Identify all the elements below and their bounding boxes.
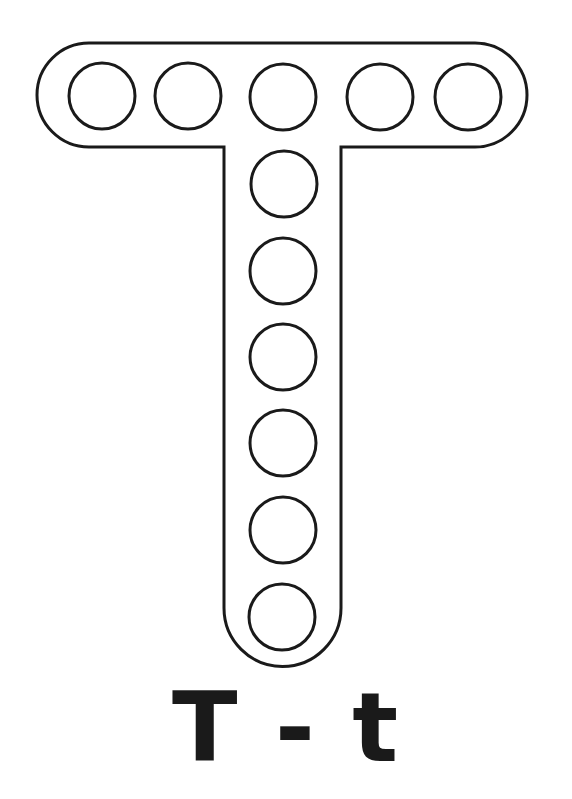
dot-circle[interactable] — [250, 324, 316, 390]
dot-circle[interactable] — [69, 63, 135, 129]
dot-circle[interactable] — [250, 410, 316, 476]
dot-circle[interactable] — [347, 64, 413, 130]
dot-circle[interactable] — [250, 497, 316, 563]
dot-circle[interactable] — [155, 63, 221, 129]
letter-caption: T - t — [0, 678, 572, 778]
dot-circle[interactable] — [251, 151, 317, 217]
letter-t-outline — [37, 43, 527, 667]
top-bar-dots — [69, 63, 501, 130]
dot-circle[interactable] — [249, 584, 315, 650]
dot-circle[interactable] — [250, 64, 316, 130]
stem-dots — [249, 151, 317, 650]
dot-circle[interactable] — [435, 64, 501, 130]
dot-circle[interactable] — [250, 238, 316, 304]
